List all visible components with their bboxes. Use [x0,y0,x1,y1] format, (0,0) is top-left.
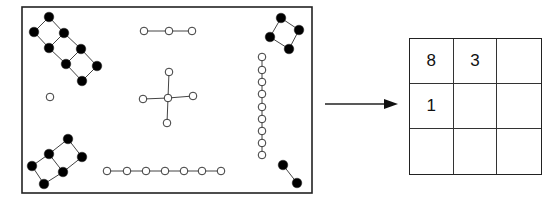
open-node [140,27,148,35]
filled-node [44,149,54,159]
filled-node [265,32,275,42]
open-node [139,95,147,103]
open-node [161,167,169,175]
arrow-icon [325,99,398,109]
open-node [258,115,266,123]
filled-node [63,134,73,144]
grid-cell-r2c1: 1 [410,84,454,129]
filled-node [76,44,86,54]
open-node [258,139,266,147]
filled-node [284,44,294,54]
open-node [142,167,150,175]
grid-cell-r2c3 [497,84,541,129]
open-node [123,167,131,175]
count-grid: 8 3 1 [409,38,542,175]
filled-node [59,28,69,38]
open-node [103,167,111,175]
grid-cell-r1c3 [497,39,541,84]
filled-node [39,179,49,189]
open-node [217,167,225,175]
filled-node [276,13,286,23]
filled-node [44,43,54,53]
open-node [258,53,266,61]
filled-node [292,178,302,188]
open-node [188,27,196,35]
open-node [258,90,266,98]
filled-node [77,152,87,162]
open-node [165,27,173,35]
grid-cell-r3c3 [497,129,541,174]
open-node [198,167,206,175]
open-node [258,151,266,159]
grid-cell-r3c1 [410,129,454,174]
filled-node [278,160,288,170]
open-node [165,68,173,76]
open-node [258,103,266,111]
open-node [163,119,171,127]
grid-cell-r1c1: 8 [410,39,454,84]
filled-node [27,161,37,171]
grid-cell-r1c2: 3 [454,39,498,84]
open-node [258,127,266,135]
open-node [258,66,266,74]
open-node [180,167,188,175]
filled-node [58,167,68,177]
open-node [164,94,172,102]
filled-node [44,12,54,22]
open-node [258,78,266,86]
open-node [189,92,197,100]
grid-cell-r3c2 [454,129,498,174]
grid-cell-r2c2 [454,84,498,129]
filled-node [294,25,304,35]
filled-node [29,27,39,37]
filled-node [61,59,71,69]
filled-node [92,61,102,71]
open-node [46,93,54,101]
filled-node [77,76,87,86]
